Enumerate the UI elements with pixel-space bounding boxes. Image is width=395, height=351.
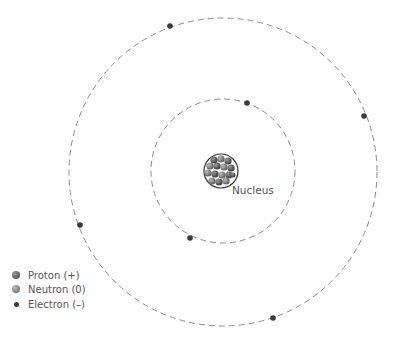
electron-icon xyxy=(167,23,173,29)
legend-item-proton: Proton (+) xyxy=(12,269,80,281)
legend-item-neutron: Neutron (0) xyxy=(12,283,86,295)
neutron-icon xyxy=(206,162,213,169)
proton-icon xyxy=(211,170,218,177)
nucleus xyxy=(204,154,238,188)
proton-icon xyxy=(231,173,236,178)
proton-icon xyxy=(224,157,231,164)
nucleus-label: Nucleus xyxy=(232,184,274,196)
legend-label: Proton (+) xyxy=(28,270,80,281)
neutron-icon xyxy=(220,163,227,170)
electron-icon xyxy=(244,100,250,106)
neutron-icon xyxy=(204,169,211,176)
neutron-icon xyxy=(218,171,225,178)
neutron-icon xyxy=(217,155,224,162)
neutron-icon xyxy=(208,177,215,184)
electron-icon xyxy=(14,302,19,307)
neutron-icon xyxy=(222,177,229,184)
legend-label: Neutron (0) xyxy=(28,284,86,295)
legend-item-electron: Electron (–) xyxy=(12,298,85,310)
electron-icon xyxy=(270,315,276,321)
proton-icon xyxy=(213,162,220,169)
proton-icon xyxy=(215,178,222,185)
proton-icon xyxy=(12,271,20,279)
neutron-icon xyxy=(12,285,20,293)
electron-icon xyxy=(361,113,367,119)
proton-icon xyxy=(227,164,234,171)
legend-label: Electron (–) xyxy=(28,299,85,310)
atom-diagram: Nucleus Proton (+) Neutron (0) Electron … xyxy=(0,0,395,351)
electron-icon xyxy=(77,222,83,228)
electron-icon xyxy=(187,235,193,241)
